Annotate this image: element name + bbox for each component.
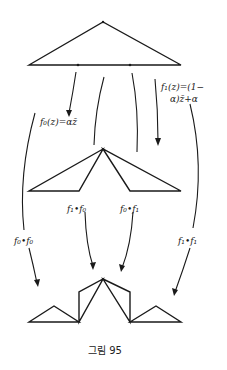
figure-caption: 그림 95 bbox=[0, 342, 210, 357]
f0f1-label: f₀•f₁ bbox=[120, 204, 139, 214]
f1f0-image bbox=[79, 279, 103, 322]
level1-arrows bbox=[66, 72, 161, 152]
f1f1-arrow bbox=[175, 248, 190, 292]
level2-arrows bbox=[85, 212, 133, 272]
f1f1-label: f₁•f₁ bbox=[178, 236, 197, 246]
f0-arrowhead-icon bbox=[66, 110, 72, 117]
f0f1-image bbox=[103, 279, 130, 322]
f1-definition-line2: α)z̄+α bbox=[170, 94, 198, 104]
f0f0-curve bbox=[22, 113, 35, 230]
base-point-right bbox=[129, 64, 132, 67]
f0-definition: f₀(z)=αz̄ bbox=[40, 117, 77, 127]
top-triangle bbox=[29, 21, 181, 67]
f0-curve-right bbox=[94, 77, 104, 145]
f1-arrow bbox=[155, 79, 158, 141]
f0f0-image bbox=[29, 306, 79, 322]
f1f1-arrowhead-icon bbox=[172, 288, 178, 296]
f1f0-arrow bbox=[85, 212, 93, 266]
f1f0-arrowhead-icon bbox=[90, 262, 96, 270]
f0f0-label: f₀•f₀ bbox=[14, 236, 33, 246]
f0f0-arrowhead-icon bbox=[34, 279, 40, 287]
outer-curves bbox=[22, 104, 198, 296]
f1-curve-left bbox=[132, 73, 137, 152]
apex-point bbox=[102, 21, 104, 23]
f0f1-arrow bbox=[122, 212, 133, 268]
f1-arrowhead-icon bbox=[155, 138, 161, 146]
middle-figure bbox=[29, 149, 181, 191]
f1-image bbox=[103, 149, 181, 191]
f0f0-arrow bbox=[29, 248, 37, 283]
base-point-left bbox=[77, 64, 80, 67]
f0-arrow bbox=[69, 72, 76, 113]
f1f1-image bbox=[130, 306, 181, 322]
bottom-figure bbox=[29, 279, 181, 322]
f1f0-label: f₁•f₀ bbox=[67, 204, 86, 214]
f0f1-arrowhead-icon bbox=[119, 264, 125, 272]
f0-image bbox=[29, 149, 103, 191]
iterated-function-diagram bbox=[0, 0, 227, 370]
f1-definition-line1: f₁(z)=(1− bbox=[161, 82, 204, 92]
f1f1-curve bbox=[190, 104, 198, 228]
